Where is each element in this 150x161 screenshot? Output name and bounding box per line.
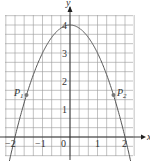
x-tick-m1: −1: [35, 138, 46, 149]
y-tick-2: 2: [62, 76, 67, 87]
x-tick-1: 1: [95, 138, 100, 149]
x-axis-label: x: [146, 131, 150, 142]
x-axis-arrow-icon: [141, 135, 146, 140]
x-tick-2: 2: [122, 138, 127, 149]
x-tick-m2: −2: [5, 138, 16, 149]
point-p1: [25, 93, 29, 97]
point-p2: [112, 93, 116, 97]
y-tick-1: 1: [62, 104, 67, 115]
x-tick-0: 0: [61, 138, 66, 149]
y-tick-4: 4: [62, 20, 67, 31]
p1-label: P1: [13, 87, 24, 100]
y-axis-label: y: [65, 0, 71, 8]
p2-label: P2: [116, 87, 127, 100]
parabola-chart: x y −2 −1 0 1 2 1 2 3 4 P1 P2: [0, 0, 150, 161]
y-tick-3: 3: [62, 48, 67, 59]
